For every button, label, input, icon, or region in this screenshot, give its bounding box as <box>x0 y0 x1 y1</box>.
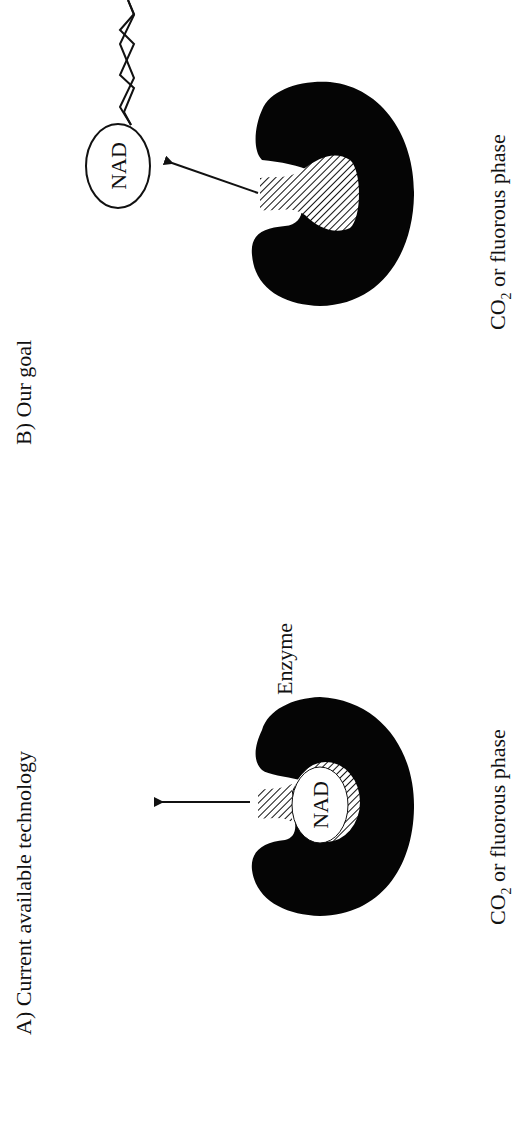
nad-cofactor-bound: NAD <box>292 767 348 843</box>
panel-b-title: B) Our goal <box>11 340 36 445</box>
nad-label: NAD <box>106 142 131 190</box>
nad-cofactor-tethered: NAD <box>86 124 150 208</box>
panel-b: B) Our goal NAD CO2 or fluorous phase <box>11 0 513 445</box>
release-arrow <box>172 163 258 193</box>
panel-a: A) Current available technology Enzyme N… <box>11 623 513 1035</box>
phase-label-a: CO2 or fluorous phase <box>485 729 513 925</box>
enzyme-body-a: NAD <box>252 697 414 916</box>
diagram-canvas: B) Our goal NAD CO2 or fluorous phase A)… <box>0 0 513 1128</box>
phase-label-b: CO2 or fluorous phase <box>485 134 513 330</box>
enzyme-body-b <box>252 82 414 306</box>
channel <box>258 784 292 822</box>
panel-a-title: A) Current available technology <box>11 751 36 1035</box>
enzyme-label: Enzyme <box>272 623 297 695</box>
nad-label-bound: NAD <box>308 781 333 829</box>
